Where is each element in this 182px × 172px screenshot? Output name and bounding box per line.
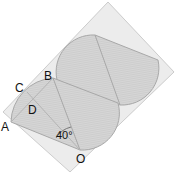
- label-c: C: [15, 81, 24, 95]
- geometry-diagram: A B C D O 40°: [0, 0, 182, 172]
- angle-label: 40°: [56, 129, 73, 141]
- label-d: D: [28, 103, 37, 117]
- label-b: B: [44, 69, 52, 83]
- label-a: A: [1, 120, 9, 134]
- label-o: O: [76, 152, 85, 166]
